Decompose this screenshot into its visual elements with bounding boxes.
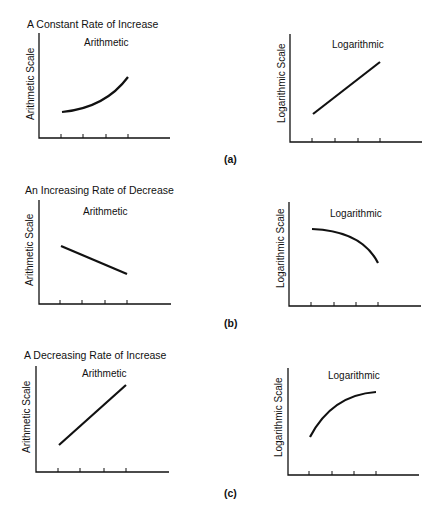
data-curve [62, 77, 128, 112]
axes [36, 366, 169, 472]
axes [290, 34, 422, 142]
panel-b-left-ylabel: Arithmetic Scale [24, 213, 35, 286]
panel-b-right-subtitle: Logarithmic [330, 208, 382, 219]
panel-b-left-subtitle: Arithmetic [83, 206, 127, 217]
data-line [59, 385, 126, 445]
panel-c-logarithmic-chart: Logarithmic Logarithmic Scale [273, 368, 419, 475]
data-curve [312, 229, 378, 263]
panel-c-right-subtitle: Logarithmic [328, 370, 380, 381]
panel-a-right-subtitle: Logarithmic [332, 39, 384, 50]
panel-a-label: (a) [224, 153, 237, 165]
panel-a-logarithmic-chart: Logarithmic Logarithmic Scale [276, 34, 422, 142]
panel-a-title: A Constant Rate of Increase [27, 18, 158, 30]
panel-b-arithmetic-chart: Arithmetic Arithmetic Scale [24, 200, 171, 304]
data-curve [310, 392, 376, 437]
panel-c-title: A Decreasing Rate of Increase [24, 349, 167, 361]
axes [39, 33, 170, 138]
figure: A Constant Rate of Increase Arithmetic A… [0, 0, 440, 516]
panel-a-right-ylabel: Logarithmic Scale [276, 43, 287, 123]
panel-c-arithmetic-chart: Arithmetic Arithmetic Scale [21, 366, 169, 472]
panel-c: A Decreasing Rate of Increase Arithmetic… [21, 349, 419, 499]
axes [288, 368, 419, 475]
panel-b-label: (b) [224, 317, 237, 329]
panel-c-right-ylabel: Logarithmic Scale [273, 377, 284, 457]
panel-b-title: An Increasing Rate of Decrease [25, 184, 174, 196]
panel-a-left-subtitle: Arithmetic [84, 37, 128, 48]
panel-a-arithmetic-chart: Arithmetic Arithmetic Scale [25, 33, 170, 138]
data-line [313, 62, 380, 114]
panel-c-label: (c) [224, 487, 237, 499]
data-line [61, 246, 127, 274]
panel-b-logarithmic-chart: Logarithmic Logarithmic Scale [275, 202, 421, 306]
panel-c-left-ylabel: Arithmetic Scale [21, 380, 32, 453]
panel-a-left-ylabel: Arithmetic Scale [25, 47, 36, 120]
panel-b-right-ylabel: Logarithmic Scale [275, 208, 286, 288]
panel-b: An Increasing Rate of Decrease Arithmeti… [24, 184, 421, 329]
panel-c-left-subtitle: Arithmetic [82, 368, 126, 379]
panel-a: A Constant Rate of Increase Arithmetic A… [25, 18, 422, 165]
